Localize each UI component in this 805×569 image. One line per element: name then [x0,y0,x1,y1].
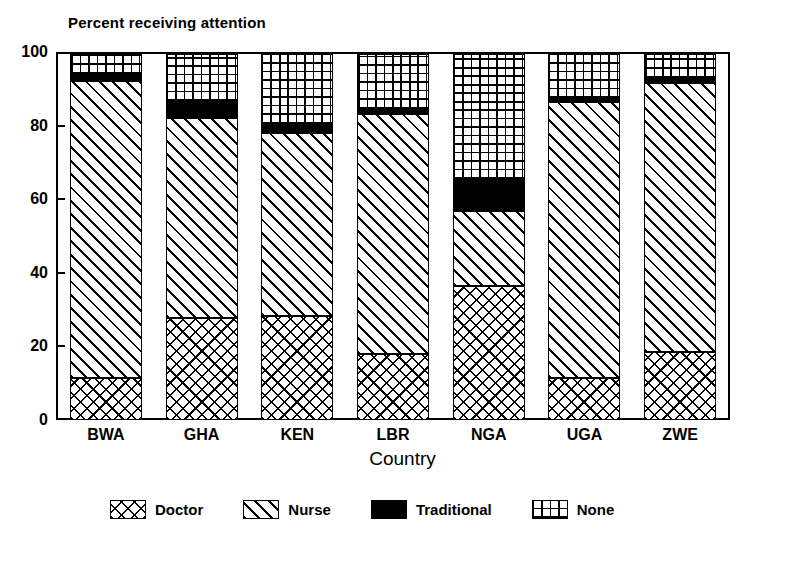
legend-label: Nurse [288,501,331,518]
bar-segment-none[interactable] [453,54,525,180]
chart-legend: DoctorNurseTraditionalNone [110,500,700,519]
bar-nga[interactable] [453,54,525,420]
y-axis-tick-label: 0 [8,411,48,429]
bar-uga[interactable] [548,54,620,420]
legend-swatch-traditional-icon [371,500,407,519]
y-axis-tick-label: 100 [8,43,48,61]
bar-segment-traditional[interactable] [261,124,333,133]
legend-label: None [577,501,615,518]
bar-segment-none[interactable] [644,54,716,78]
bar-segment-traditional[interactable] [453,180,525,211]
bar-segment-doctor[interactable] [261,316,333,420]
bar-zwe[interactable] [644,54,716,420]
bar-segment-none[interactable] [548,54,620,99]
x-axis-tick-label: LBR [338,426,448,444]
x-axis-tick-label: ZWE [625,426,735,444]
y-axis-tick-mark [56,345,65,347]
chart-root: Percent receiving attention Country Doct… [0,0,805,569]
bar-segment-traditional[interactable] [166,102,238,118]
x-axis-tick-label: BWA [51,426,161,444]
bar-segment-traditional[interactable] [357,109,429,114]
x-axis-tick-label: GHA [147,426,257,444]
bar-ken[interactable] [261,54,333,420]
legend-item-traditional[interactable]: Traditional [371,500,492,519]
x-axis-label: Country [0,448,805,470]
legend-item-doctor[interactable]: Doctor [110,500,203,519]
legend-label: Traditional [416,501,492,518]
bar-segment-nurse[interactable] [166,118,238,317]
bar-segment-nurse[interactable] [357,114,429,354]
bar-segment-none[interactable] [357,54,429,109]
bar-segment-traditional[interactable] [644,78,716,83]
bar-lbr[interactable] [357,54,429,420]
legend-swatch-none-icon [532,500,568,519]
bar-segment-none[interactable] [261,54,333,124]
bar-segment-doctor[interactable] [644,352,716,420]
legend-item-none[interactable]: None [532,500,615,519]
bar-segment-doctor[interactable] [166,318,238,420]
bar-segment-doctor[interactable] [70,378,142,420]
x-axis-tick-label: NGA [434,426,544,444]
plot-title: Percent receiving attention [68,14,266,31]
bar-segment-traditional[interactable] [548,99,620,102]
bar-segment-doctor[interactable] [357,354,429,420]
y-axis-tick-label: 40 [8,264,48,282]
legend-item-nurse[interactable]: Nurse [243,500,331,519]
x-axis-tick-label: KEN [242,426,352,444]
y-axis-tick-mark [56,198,65,200]
bar-segment-none[interactable] [166,54,238,102]
y-axis-tick-label: 80 [8,117,48,135]
bar-segment-nurse[interactable] [70,81,142,377]
legend-swatch-nurse-icon [243,500,279,519]
bar-gha[interactable] [166,54,238,420]
legend-swatch-doctor-icon [110,500,146,519]
x-axis-tick-label: UGA [529,426,639,444]
bar-segment-nurse[interactable] [453,211,525,286]
bar-segment-doctor[interactable] [548,378,620,420]
bar-segment-traditional[interactable] [70,74,142,81]
bar-segment-doctor[interactable] [453,286,525,420]
y-axis-tick-mark [56,272,65,274]
bar-segment-nurse[interactable] [261,133,333,316]
y-axis-tick-label: 20 [8,337,48,355]
bar-segment-none[interactable] [70,54,142,74]
y-axis-tick-label: 60 [8,190,48,208]
y-axis-tick-mark [56,125,65,127]
bar-segment-nurse[interactable] [644,83,716,352]
bars-layer [58,54,728,420]
bar-bwa[interactable] [70,54,142,420]
bar-segment-nurse[interactable] [548,102,620,378]
legend-label: Doctor [155,501,203,518]
